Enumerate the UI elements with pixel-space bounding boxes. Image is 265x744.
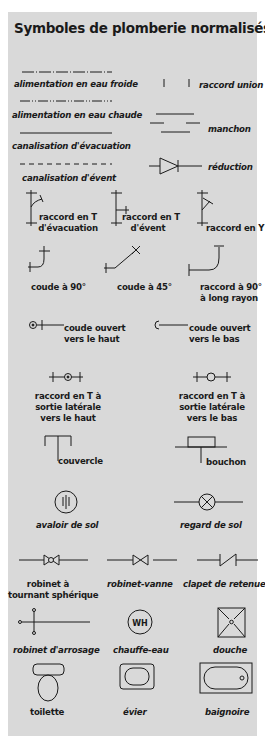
label-hot-water: alimentation en eau chaude <box>12 110 142 121</box>
label-plug: bouchon <box>206 457 246 468</box>
water-heater-text: WH <box>132 619 148 628</box>
label-hose-bibb: robinet d'arrosage <box>13 645 100 656</box>
label-elbow-90: coude à 90° <box>31 282 86 293</box>
label-cold-water: alimentation en eau froide <box>14 79 138 90</box>
label-elbow-45: coude à 45° <box>117 282 172 293</box>
ball-valve-icon <box>19 555 88 565</box>
elbow-up-icon <box>30 320 65 330</box>
label-sink: évier <box>123 707 146 718</box>
label-ball-valve: robinet à tournant sphérique <box>8 579 88 601</box>
cleanout-icon <box>174 494 243 510</box>
label-wye: raccord en Y <box>206 223 264 234</box>
label-gate-valve: robinet-vanne <box>107 579 173 590</box>
bathtub-icon <box>200 663 252 693</box>
union-ticks-icon <box>164 79 189 87</box>
label-toilet: toilette <box>30 707 64 718</box>
elbow-down-icon <box>155 321 188 329</box>
coupling-lines-icon <box>150 114 200 132</box>
label-drain-tee: raccord en T d'évacuation <box>38 212 98 234</box>
label-cleanout: regard de sol <box>180 520 242 531</box>
check-valve-icon <box>197 554 258 566</box>
label-water-heater: chauffe-eau <box>113 645 169 656</box>
label-elbow-down: coude ouvert vers le bas <box>189 323 251 345</box>
label-coupling: manchon <box>208 124 251 135</box>
label-check-valve: clapet de retenue <box>183 579 265 590</box>
long-sweep-90-icon <box>189 246 224 276</box>
label-floor-drain: avaloir de sol <box>36 520 98 531</box>
elbow-45-icon <box>104 246 140 273</box>
reducer-triangle-icon <box>149 158 202 174</box>
label-union: raccord union <box>199 80 263 91</box>
gate-valve-icon <box>107 555 177 565</box>
label-bathtub: baignoire <box>205 707 249 718</box>
wye-icon <box>197 190 213 226</box>
label-vent-line: canalisation d'évent <box>22 173 116 184</box>
label-shower: douche <box>213 645 247 656</box>
tee-outlet-down-icon <box>193 372 231 382</box>
sink-icon <box>120 664 154 689</box>
label-elbow-up: coude ouvert vers le haut <box>64 323 126 345</box>
label-tee-outlet-down: raccord en T à sortie latérale vers le b… <box>174 391 250 424</box>
floor-drain-icon <box>55 491 77 513</box>
hose-bibb-icon <box>19 609 91 635</box>
label-reducer: réduction <box>208 162 253 173</box>
tee-outlet-up-icon <box>49 372 83 382</box>
label-long-sweep: raccord à 90° à long rayon <box>200 282 262 304</box>
elbow-90-icon <box>28 246 50 272</box>
shower-icon <box>218 608 245 637</box>
label-tee-outlet-up: raccord en T à sortie latérale vers le h… <box>30 391 106 424</box>
label-cap: couvercle <box>58 456 103 467</box>
label-waste-line: canalisation d'évacuation <box>12 141 131 152</box>
toilet-icon <box>33 664 64 701</box>
label-vent-tee: raccord en T d'évent <box>122 212 174 234</box>
